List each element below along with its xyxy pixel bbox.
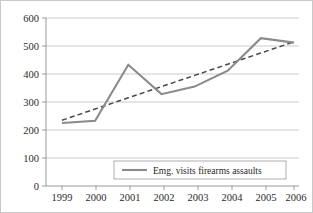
- xtick-label-2005: 2005: [256, 192, 277, 203]
- xtick-label-2000: 2000: [86, 192, 107, 203]
- ytick-label-300: 300: [23, 97, 39, 108]
- xtick-label-1999: 1999: [52, 192, 73, 203]
- y-axis-tick-labels: 600 500 400 300 200 100 0: [23, 13, 39, 192]
- ytick-label-500: 500: [23, 41, 39, 52]
- xtick-label-2004: 2004: [222, 192, 244, 203]
- ytick-label-200: 200: [23, 125, 39, 136]
- x-axis-ticks: [62, 186, 294, 190]
- chart-figure: 600 500 400 300 200 100 0 1999 2000 2001…: [0, 0, 313, 213]
- line-chart-canvas: 600 500 400 300 200 100 0 1999 2000 2001…: [1, 1, 313, 213]
- y-axis-ticks: [42, 18, 46, 186]
- chart-legend[interactable]: Emg. visits firearms assaults: [114, 161, 286, 179]
- x-axis-tick-labels: 1999 2000 2001 2002 2003 2004 2005 2006: [52, 192, 307, 203]
- xtick-label-2001: 2001: [120, 192, 141, 203]
- ytick-label-400: 400: [23, 69, 39, 80]
- xtick-label-2003: 2003: [188, 192, 209, 203]
- legend-label-emg-visits-firearms-assaults: Emg. visits firearms assaults: [153, 166, 262, 176]
- xtick-label-2002: 2002: [154, 192, 175, 203]
- ytick-label-600: 600: [23, 13, 39, 24]
- ytick-label-100: 100: [23, 153, 39, 164]
- xtick-label-2006: 2006: [286, 192, 307, 203]
- ytick-label-0: 0: [34, 181, 39, 192]
